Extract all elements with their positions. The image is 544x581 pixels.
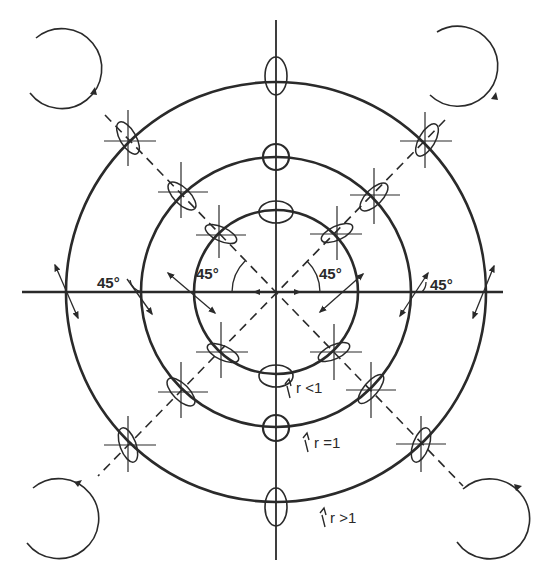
rotation-arc-bottom-left xyxy=(27,479,99,559)
double-arrow-icon xyxy=(400,273,428,316)
cross-marker xyxy=(310,324,362,380)
angle-label: 45° xyxy=(430,276,453,293)
polarization-diagram: 45° 45° 45° 45° r <1 r =1 r >1 xyxy=(0,0,544,581)
angle-label: 45° xyxy=(196,265,219,282)
arc-arrow-icon xyxy=(491,92,498,100)
diagonal-dashed-line-tl-br xyxy=(105,115,463,486)
angle-arc xyxy=(422,282,426,292)
angle-label: 45° xyxy=(97,274,120,291)
hook-arrow-icon xyxy=(303,433,309,452)
cross-marker xyxy=(350,168,400,224)
angle-arc xyxy=(232,261,245,292)
r-less-than-one-label: r <1 xyxy=(296,379,322,396)
hook-arrow-icon xyxy=(285,379,291,398)
cross-marker xyxy=(158,162,208,218)
rotation-arc-top-left xyxy=(30,29,102,109)
diagonal-dashed-line-tr-bl xyxy=(98,120,445,476)
cross-marker xyxy=(310,206,362,260)
r-equals-one-label: r =1 xyxy=(314,434,340,451)
rotation-arc-top-right xyxy=(430,26,498,106)
cross-marker xyxy=(104,110,156,166)
hook-arrow-icon xyxy=(320,508,326,527)
rotation-arc-bottom-right xyxy=(457,479,530,559)
r-greater-than-one-label: r >1 xyxy=(330,509,356,526)
angle-label: 45° xyxy=(319,265,342,282)
